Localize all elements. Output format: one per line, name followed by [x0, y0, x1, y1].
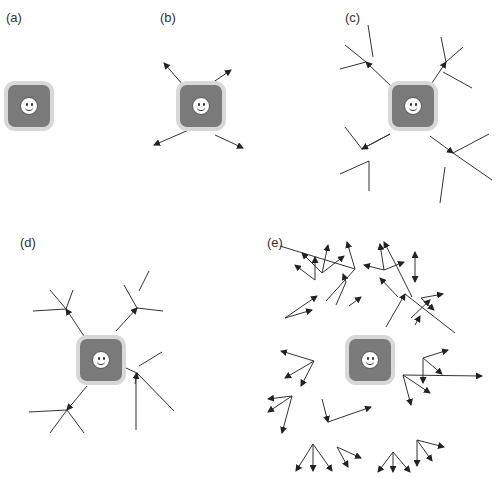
arrow — [328, 407, 371, 422]
arrow — [384, 262, 404, 270]
smiley-icon — [192, 97, 210, 115]
line-segment — [453, 134, 489, 153]
smiley-icon — [20, 97, 38, 115]
line-segment — [139, 271, 149, 291]
arrow — [362, 134, 390, 149]
arrow — [209, 70, 231, 85]
line-segment — [139, 352, 162, 366]
arrow — [281, 351, 314, 361]
smiley-icon — [361, 351, 379, 369]
line-segment — [137, 373, 174, 411]
line-segment — [29, 410, 67, 412]
arrow — [366, 62, 392, 87]
diagram-root: (a) (b) (c) (d) (e) — [0, 0, 497, 484]
arrow — [67, 386, 87, 410]
line-segment — [340, 161, 369, 174]
line-segment — [396, 265, 412, 297]
arrow — [430, 136, 453, 153]
line-segment — [345, 45, 366, 62]
arrow — [386, 294, 405, 327]
agent-b — [180, 85, 222, 127]
arrow — [393, 452, 410, 472]
agent-c — [392, 85, 434, 127]
smiley-icon — [404, 97, 422, 115]
arrow — [384, 242, 396, 265]
arrow — [347, 242, 355, 269]
arrow — [423, 358, 442, 374]
line-segment — [340, 62, 366, 69]
smiley-icon — [92, 351, 110, 369]
arrow — [164, 63, 183, 85]
agent-d — [80, 339, 122, 381]
arrow — [423, 350, 448, 358]
arrow — [421, 294, 443, 298]
arrow — [295, 265, 315, 280]
line-segment — [124, 285, 137, 308]
arrow — [322, 399, 328, 422]
arrow — [66, 309, 84, 336]
arrow — [116, 308, 137, 331]
line-segment — [441, 37, 446, 62]
arrow — [380, 278, 398, 297]
line-segment — [453, 153, 492, 180]
arrow — [415, 316, 420, 325]
line-segment — [67, 410, 84, 433]
line-segment — [345, 127, 362, 149]
agent-a — [8, 85, 50, 127]
arrow — [430, 62, 446, 86]
line-segment — [33, 309, 66, 311]
arrow — [154, 129, 191, 145]
line-segment — [66, 290, 73, 309]
arrow — [364, 265, 384, 270]
agent-e — [349, 339, 391, 381]
arrow — [337, 447, 361, 458]
arrow — [296, 444, 313, 471]
arrow — [378, 452, 393, 472]
line-segment — [446, 47, 463, 62]
line-segment — [443, 72, 472, 88]
arrow — [403, 375, 482, 376]
arrow — [380, 244, 384, 270]
line-segment — [368, 25, 373, 57]
line-segment — [137, 308, 163, 311]
line-segment — [405, 294, 455, 333]
diagram-lines — [0, 0, 497, 484]
line-segment — [326, 269, 355, 301]
arrow — [285, 296, 317, 318]
arrow — [349, 297, 361, 306]
line-segment — [50, 410, 67, 433]
arrow — [285, 310, 312, 318]
line-segment — [336, 282, 346, 305]
line-segment — [50, 290, 66, 309]
line-segment — [440, 167, 445, 203]
arrow — [215, 135, 243, 148]
line-segment — [280, 246, 355, 269]
arrow — [313, 444, 332, 471]
arrow — [411, 300, 430, 318]
